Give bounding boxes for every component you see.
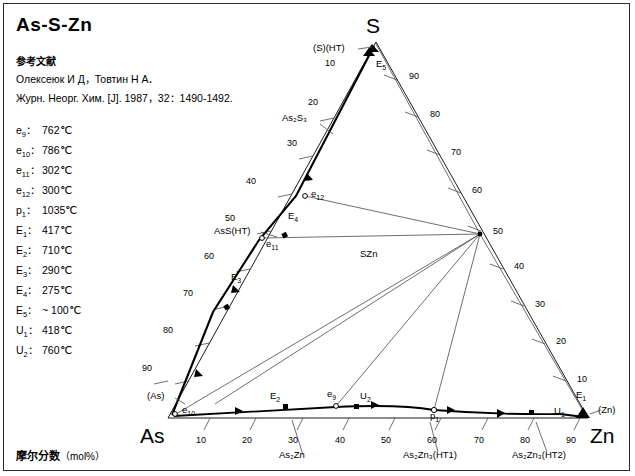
leader-lines	[175, 47, 601, 455]
tick-bottom-90: 90	[566, 435, 576, 445]
label-ass-ht: AsS(HT)	[214, 225, 250, 236]
point-e3-marker	[223, 304, 230, 311]
tick-right-30: 30	[535, 299, 545, 309]
tick-right-10: 10	[577, 374, 587, 384]
tick-bottom-40: 40	[335, 435, 345, 445]
label-as2zn3-ht1: As₂Zn₃(HT1)	[403, 449, 457, 460]
label-as2zn3-ht2: As₂Zn₃(HT2)	[512, 449, 566, 460]
tick-right-80: 80	[430, 109, 440, 119]
point-label-u2: U2	[360, 390, 371, 403]
point-label-p1: p1	[430, 410, 439, 423]
tick-left-50: 50	[225, 213, 235, 223]
tick-left-40: 40	[246, 176, 256, 186]
tick-left-30: 30	[287, 138, 297, 148]
point-label-e11: e11	[266, 238, 279, 251]
tick-left-90: 90	[142, 363, 152, 373]
tick-bottom-20: 20	[242, 435, 252, 445]
point-label-e12: e12	[311, 188, 324, 201]
point-u2	[354, 404, 359, 409]
tick-left-60: 60	[204, 251, 214, 261]
vertex-s: S	[366, 14, 380, 38]
point-label-e1: E1	[576, 389, 586, 402]
point-label-e10: e10	[182, 404, 195, 417]
label-zn-solid: (Zn)	[598, 404, 615, 415]
label-szn: SZn	[360, 248, 377, 259]
point-label-e3: E3	[231, 271, 241, 284]
vertex-zn: Zn	[590, 424, 615, 448]
tick-right-40: 40	[514, 261, 524, 271]
label-as2s3: As₂S₃	[282, 112, 307, 123]
point-e12	[303, 194, 308, 199]
point-e9	[334, 404, 339, 409]
point-u1	[529, 410, 534, 415]
vertex-as: As	[140, 424, 165, 448]
tick-right-60: 60	[472, 185, 482, 195]
bottom-axis-ticks	[204, 418, 580, 430]
point-label-e4: E4	[288, 210, 298, 223]
label-as-solid: (As)	[147, 390, 164, 401]
tick-left-20: 20	[308, 97, 318, 107]
tick-bottom-70: 70	[474, 435, 484, 445]
edge-s-zn	[376, 42, 588, 418]
node-szn	[478, 232, 483, 237]
phase-diagram-page: As-S-Zn 参考文献 Олексеюк И Д，Товтин Н А． Жу…	[0, 0, 635, 476]
tick-right-50: 50	[493, 226, 503, 236]
label-as2zn: As₂Zn	[279, 449, 305, 460]
point-e11	[260, 236, 265, 241]
tick-bottom-60: 60	[427, 435, 437, 445]
boundary-as-s-side	[172, 46, 374, 415]
tick-right-90: 90	[409, 71, 419, 81]
point-e10	[173, 412, 178, 417]
ternary-diagram	[0, 0, 635, 476]
edge-as-s	[168, 42, 376, 418]
tick-left-80: 80	[163, 325, 173, 335]
tick-bottom-10: 10	[196, 435, 206, 445]
tick-left-10: 10	[325, 58, 335, 68]
point-label-u1: U1	[554, 405, 565, 418]
left-axis-ticks	[154, 118, 334, 384]
point-label-e9: e9	[327, 388, 336, 401]
tick-bottom-30: 30	[288, 435, 298, 445]
point-e2	[283, 404, 288, 409]
tick-bottom-50: 50	[381, 435, 391, 445]
point-label-e2: E2	[270, 390, 280, 403]
point-e1	[576, 407, 590, 418]
tick-right-70: 70	[451, 147, 461, 157]
point-label-e5: E5	[376, 58, 386, 71]
tick-bottom-80: 80	[520, 435, 530, 445]
tick-right-20: 20	[556, 336, 566, 346]
tick-left-70: 70	[183, 288, 193, 298]
label-s-ht: (S)(HT)	[313, 42, 345, 53]
